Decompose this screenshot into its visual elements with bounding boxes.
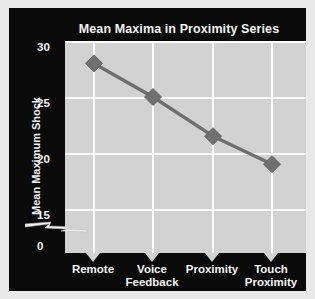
plot-area: [65, 41, 306, 253]
y-tick-label-25: 25: [37, 97, 65, 109]
x-tick-label-line2: Feedback: [109, 276, 195, 289]
x-tick-label-line2: Proximity: [228, 276, 314, 289]
chart-title: Mean Maxima in Proximity Series: [49, 19, 309, 39]
chart-panel: Mean Maxima in Proximity Series Mean Max…: [9, 8, 306, 291]
chart-figure: Mean Maxima in Proximity Series Mean Max…: [0, 0, 315, 299]
series-line: [94, 63, 272, 164]
axis-break-icon: [25, 216, 87, 238]
x-tick-proximity: [205, 253, 219, 262]
x-tick-remote: [86, 253, 100, 262]
y-tick-label-30: 30: [37, 41, 65, 53]
y-tick-label-20: 20: [37, 153, 65, 165]
x-tick-label-line1: Touch: [228, 263, 314, 276]
data-point-touch-proximity: [264, 156, 281, 173]
data-point-proximity: [205, 128, 222, 145]
y-tick-label-0: 0: [37, 240, 65, 252]
x-tick-voice-feedback: [145, 253, 159, 262]
x-tick-label-touch-proximity: Touch Proximity: [228, 263, 314, 289]
x-tick-touch-proximity: [264, 253, 278, 262]
series-line-chart: [65, 41, 306, 253]
data-point-voice-feedback: [145, 89, 162, 106]
data-point-remote: [86, 55, 103, 72]
